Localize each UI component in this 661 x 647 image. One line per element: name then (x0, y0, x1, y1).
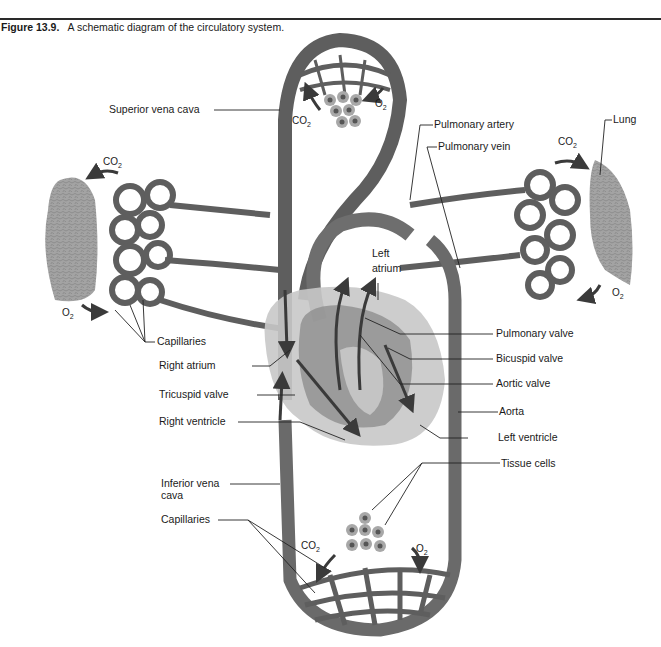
label-capillaries-body: Capillaries (161, 513, 210, 525)
label-aorta: Aorta (499, 405, 524, 417)
o2-label-upper: O2 (375, 98, 387, 111)
label-pulmonary-vein: Pulmonary vein (438, 140, 511, 152)
label-aortic-valve: Aortic valve (496, 377, 550, 389)
o2-label-right-lung: O2 (612, 287, 624, 300)
right-lung-capillaries (400, 172, 578, 297)
co2-label-lower: CO2 (301, 540, 320, 553)
label-pulmonary-artery: Pulmonary artery (434, 118, 515, 130)
co2-label-right-lung: CO2 (558, 136, 577, 149)
label-tricuspid-valve: Tricuspid valve (159, 388, 229, 400)
label-right-atrium: Right atrium (159, 359, 216, 371)
co2-label-left-lung: CO2 (103, 156, 122, 169)
label-left-ventricle: Left ventricle (498, 431, 558, 443)
label-capillaries-lung: Capillaries (157, 335, 206, 347)
label-inferior-vena-cava-1: Inferior vena (161, 477, 220, 489)
label-superior-vena-cava: Superior vena cava (109, 103, 200, 115)
label-right-ventricle: Right ventricle (159, 415, 226, 427)
left-lung-capillaries (112, 182, 290, 330)
co2-label-upper: CO2 (292, 115, 311, 128)
label-pulmonary-valve: Pulmonary valve (496, 327, 574, 339)
label-left-atrium-1: Left (372, 247, 390, 259)
label-left-atrium-2: atrium (372, 262, 401, 274)
label-tissue-cells: Tissue cells (501, 457, 555, 469)
tissue-cells-lower (346, 512, 386, 552)
tissue-cells-upper (324, 91, 362, 128)
label-lung: Lung (613, 113, 637, 125)
o2-label-left-lung: O2 (62, 307, 74, 320)
right-lung (590, 160, 633, 285)
label-inferior-vena-cava-2: cava (161, 489, 183, 501)
circulatory-diagram: CO2 O2 CO2 O2 CO2 O2 CO2 O2 Superior ven… (0, 0, 661, 647)
left-lung (45, 178, 97, 302)
label-bicuspid-valve: Bicuspid valve (496, 352, 563, 364)
lower-body-capillaries (300, 568, 450, 625)
